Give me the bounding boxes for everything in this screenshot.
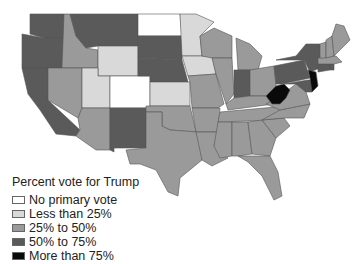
state-ri — [330, 64, 334, 70]
legend-label: No primary vote — [29, 193, 117, 207]
state-wi — [200, 28, 232, 58]
state-me — [332, 24, 350, 56]
legend-item-gt75: More than 75% — [12, 249, 139, 263]
legend-item-none: No primary vote — [12, 193, 139, 207]
legend-item-25-50: 25% to 50% — [12, 221, 139, 235]
state-az — [76, 108, 110, 150]
state-mi — [236, 38, 262, 70]
swatch-50-75 — [12, 238, 25, 246]
legend-item-lt25: Less than 25% — [12, 207, 139, 221]
state-ia — [182, 56, 216, 76]
state-fl — [238, 156, 282, 200]
state-nm — [110, 108, 146, 152]
state-vt — [320, 42, 326, 58]
legend-label: 25% to 50% — [29, 221, 96, 235]
state-wy — [98, 46, 138, 76]
state-ar — [192, 108, 220, 132]
legend-item-50-75: 50% to 75% — [12, 235, 139, 249]
state-in — [234, 70, 250, 98]
swatch-gt75 — [12, 252, 25, 260]
state-sd — [138, 36, 182, 60]
state-ct — [318, 64, 330, 72]
state-wa — [30, 14, 64, 38]
legend-label: 50% to 75% — [29, 235, 96, 249]
state-nd — [138, 14, 182, 36]
legend: Percent vote for Trump No primary vote L… — [12, 175, 139, 263]
legend-title: Percent vote for Trump — [12, 175, 139, 189]
swatch-none — [12, 196, 25, 204]
legend-label: Less than 25% — [29, 207, 112, 221]
state-ks — [150, 82, 190, 106]
state-or — [22, 34, 64, 68]
legend-label: More than 75% — [29, 249, 114, 263]
swatch-25-50 — [12, 224, 25, 232]
swatch-lt25 — [12, 210, 25, 218]
state-co — [110, 76, 150, 108]
